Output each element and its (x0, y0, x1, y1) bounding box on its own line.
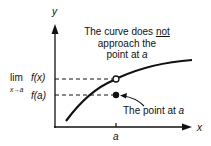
annotation-bottom-pre: The point at (123, 105, 179, 116)
annotation-top-line3-var: a (142, 49, 148, 60)
x-axis-label: x (197, 122, 202, 133)
x-tick-label-a: a (113, 131, 119, 142)
annotation-top-line1-pre: The curve does (84, 26, 156, 37)
limit-subscript: x→a (10, 84, 23, 95)
fa-label: f(a) (31, 90, 46, 101)
filled-dot-fa-point (113, 92, 119, 98)
annotation-top-line3-pre: point at (106, 49, 142, 60)
y-axis-label: y (52, 6, 57, 17)
pointer-arrow-head-icon (120, 93, 127, 99)
x-axis-arrow-icon (182, 124, 192, 131)
annotation-top-line2: approach the (77, 38, 177, 50)
limit-lim-text: lim (10, 72, 23, 83)
annotation-top-emphasis-not: not (156, 26, 170, 37)
limit-fx-text: f(x) (31, 72, 45, 83)
open-circle-limit-point (113, 76, 119, 82)
annotation-point-at-a: The point at a (123, 105, 184, 116)
annotation-curve-not-approach: The curve does not approach the point at… (77, 26, 177, 61)
annotation-bottom-var: a (179, 105, 185, 116)
y-axis-arrow-icon (52, 24, 59, 34)
